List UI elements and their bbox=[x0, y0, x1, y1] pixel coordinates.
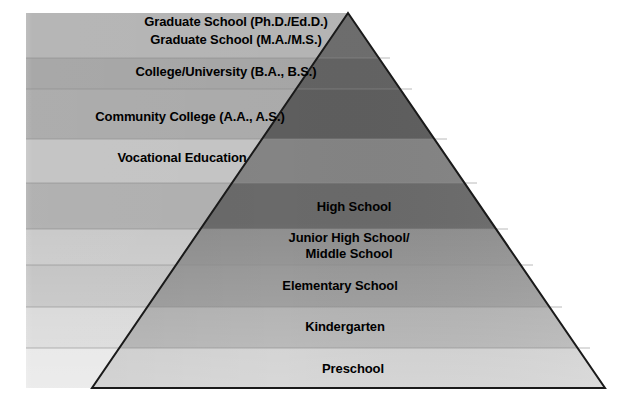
education-pyramid-diagram: Graduate School (Ph.D./Ed.D.) Graduate S… bbox=[0, 0, 624, 403]
pyramid-graphic bbox=[0, 0, 624, 403]
